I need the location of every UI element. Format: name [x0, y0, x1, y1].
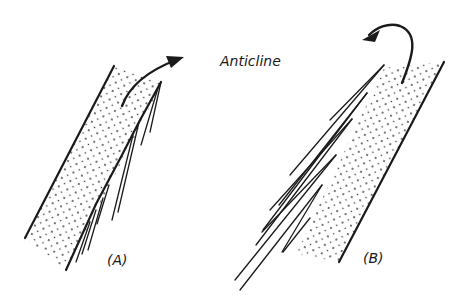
anticline-diagram: (A) Anticline (B) [0, 0, 461, 301]
sandstone-bed-b [296, 62, 444, 262]
anticline-label: Anticline [219, 53, 281, 69]
sandstone-bed-a [25, 66, 163, 270]
arrowhead-a-icon [166, 56, 184, 68]
panel-label-b: (B) [363, 250, 384, 266]
panel-label-a: (A) [107, 252, 128, 268]
panel-a: (A) [25, 56, 184, 270]
